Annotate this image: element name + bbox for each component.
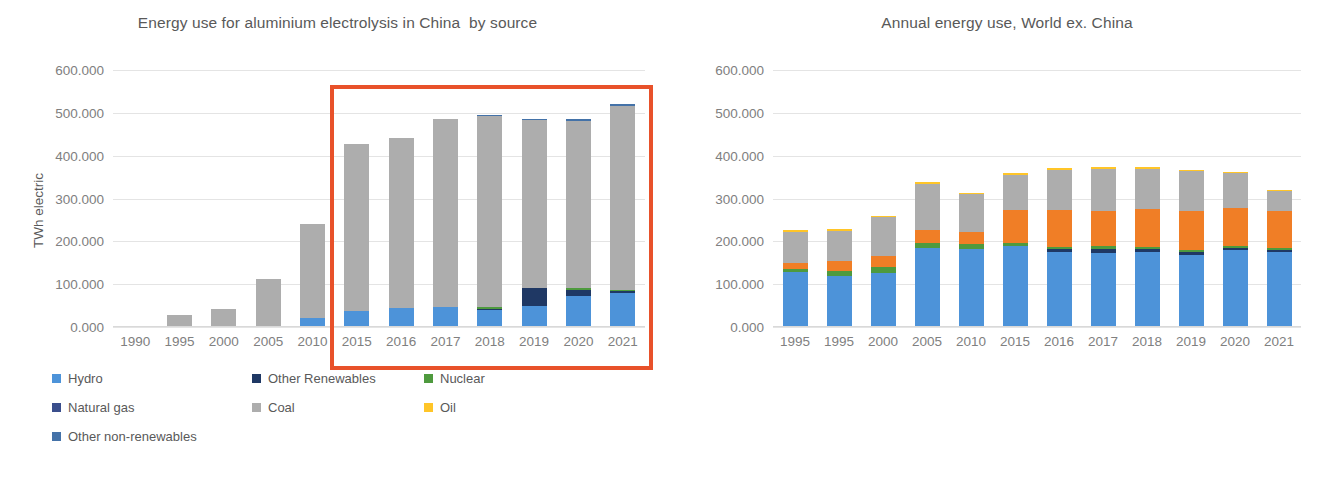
stacked-bar[interactable]: [1003, 173, 1028, 327]
bar-segment-natural-gas: [1267, 211, 1292, 248]
stacked-bar[interactable]: [211, 309, 236, 327]
stacked-bar[interactable]: [1047, 168, 1072, 327]
legend-label: Oil: [440, 400, 456, 415]
stacked-bar[interactable]: [1223, 172, 1248, 327]
stacked-bar[interactable]: [1135, 167, 1160, 327]
stacked-bar[interactable]: [959, 193, 984, 327]
y-axis-tick: 300.000: [715, 191, 764, 206]
x-axis-tick: 1995: [157, 334, 201, 349]
y-axis-tick: 600.000: [715, 63, 764, 78]
bar-slot: [1125, 70, 1169, 327]
x-axis-tick: 2015: [993, 334, 1037, 349]
bar-slot: [113, 70, 157, 327]
legend-item-natural-gas[interactable]: Natural gas: [52, 400, 252, 415]
legend-swatch-icon: [52, 403, 61, 412]
x-axis-tick: 2019: [1169, 334, 1213, 349]
legend-swatch-icon: [252, 374, 261, 383]
x-axis-tick: 1990: [113, 334, 157, 349]
legend-swatch-icon: [424, 403, 433, 412]
x-axis-tick: 2005: [905, 334, 949, 349]
bar-segment-hydro: [871, 273, 896, 327]
stacked-bar[interactable]: [1091, 167, 1116, 327]
bar-slot: [1037, 70, 1081, 327]
bar-slot: [993, 70, 1037, 327]
bar-segment-natural-gas: [827, 261, 852, 272]
y-axis-tick: 400.000: [715, 148, 764, 163]
bar-segment-coal: [1135, 169, 1160, 209]
bar-slot: [949, 70, 993, 327]
stacked-bar[interactable]: [300, 224, 325, 327]
stacked-bar[interactable]: [1179, 170, 1204, 327]
chart-title-china: Energy use for aluminium electrolysis in…: [0, 14, 661, 32]
bar-slot: [905, 70, 949, 327]
legend-label: Natural gas: [68, 400, 134, 415]
y-axis-tick: 600.000: [55, 63, 104, 78]
y-axis-label-china: TWh electric: [31, 173, 46, 248]
bar-segment-natural-gas: [959, 232, 984, 244]
stacked-bar[interactable]: [1267, 190, 1292, 327]
highlight-box-china: [330, 85, 653, 370]
bar-segment-natural-gas: [1135, 209, 1160, 247]
x-axis-tick: 2000: [202, 334, 246, 349]
bar-slot: [817, 70, 861, 327]
x-axis-tick: 2020: [1213, 334, 1257, 349]
y-axis-tick: 100.000: [55, 277, 104, 292]
y-axis-tick: 400.000: [55, 148, 104, 163]
legend-item-coal[interactable]: Coal: [252, 400, 424, 415]
bar-segment-hydro: [915, 248, 940, 327]
legend-item-hydro[interactable]: Hydro: [52, 371, 252, 386]
bar-slot: [1081, 70, 1125, 327]
legend-label: Other Renewables: [268, 371, 376, 386]
legend-item-nuclear[interactable]: Nuclear: [424, 371, 512, 386]
bar-slot: [290, 70, 334, 327]
legend-item-other-renewables[interactable]: Other Renewables: [252, 371, 424, 386]
legend-item-other-non-renewables[interactable]: Other non-renewables: [52, 429, 252, 444]
bar-segment-hydro: [827, 276, 852, 327]
y-axis-tick: 0.000: [70, 320, 104, 335]
bar-slot: [202, 70, 246, 327]
legend-swatch-icon: [52, 432, 61, 441]
stacked-bar[interactable]: [256, 279, 281, 327]
stacked-bar[interactable]: [827, 229, 852, 327]
stacked-bar[interactable]: [871, 216, 896, 327]
bar-segment-hydro: [783, 272, 808, 327]
bar-segment-natural-gas: [1091, 211, 1116, 247]
bar-segment-hydro: [1135, 252, 1160, 327]
bar-segment-coal: [300, 224, 325, 317]
bar-slot: [1257, 70, 1301, 327]
legend-label: Nuclear: [440, 371, 485, 386]
y-axis-tick: 500.000: [715, 105, 764, 120]
bar-segment-coal: [1179, 171, 1204, 211]
y-axis-tick: 200.000: [715, 234, 764, 249]
x-axis-tick: 2010: [949, 334, 993, 349]
bar-segment-hydro: [1091, 253, 1116, 327]
bar-slot: [773, 70, 817, 327]
legend-swatch-icon: [252, 403, 261, 412]
bar-segment-hydro: [1047, 252, 1072, 327]
legend-swatch-icon: [52, 374, 61, 383]
chart-panel-world: Annual energy use, World ex. China TWh e…: [661, 0, 1323, 479]
bar-segment-hydro: [1223, 250, 1248, 327]
bar-segment-coal: [1047, 170, 1072, 210]
plot-area-world: 0.000100.000200.000300.000400.000500.000…: [773, 70, 1301, 327]
x-axis-tick: 2018: [1125, 334, 1169, 349]
x-axis-baseline: [773, 326, 1301, 327]
x-axis-world: 1995199520002005201020152016201720182019…: [773, 334, 1301, 349]
bar-segment-coal: [1267, 191, 1292, 212]
bar-slot: [157, 70, 201, 327]
bar-segment-hydro: [1267, 252, 1292, 327]
y-axis-tick: 100.000: [715, 277, 764, 292]
bar-segment-coal: [1003, 175, 1028, 210]
stacked-bar[interactable]: [783, 230, 808, 327]
bar-segment-natural-gas: [1003, 210, 1028, 243]
bar-segment-natural-gas: [1047, 210, 1072, 246]
bar-slot: [861, 70, 905, 327]
bar-segment-coal: [915, 184, 940, 230]
stacked-bar[interactable]: [915, 182, 940, 327]
bar-segment-natural-gas: [1223, 208, 1248, 247]
legend-label: Other non-renewables: [68, 429, 197, 444]
bar-segment-hydro: [959, 249, 984, 327]
legend-item-oil[interactable]: Oil: [424, 400, 512, 415]
bar-segment-natural-gas: [915, 230, 940, 243]
bar-segment-coal: [827, 231, 852, 261]
